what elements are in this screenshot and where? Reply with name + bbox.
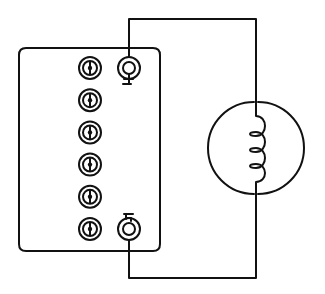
coaxial-terminal-center <box>88 66 92 70</box>
coaxial-terminal[interactable] <box>79 57 101 79</box>
wire-positive <box>129 19 256 102</box>
coaxial-terminal[interactable] <box>79 121 101 143</box>
coaxial-terminal[interactable] <box>79 89 101 111</box>
coaxial-terminal-column <box>79 57 101 240</box>
wire-negative <box>129 194 256 278</box>
lamp-filament <box>250 102 265 194</box>
coaxial-terminal-center <box>88 195 92 199</box>
coaxial-terminal[interactable] <box>79 186 101 208</box>
diagram-canvas <box>0 0 325 294</box>
lamp-bulb-left <box>208 102 254 194</box>
coaxial-terminal-center <box>88 162 92 166</box>
lower-ring-terminal[interactable] <box>118 214 140 240</box>
circuit-diagram <box>0 0 325 294</box>
coaxial-terminal[interactable] <box>79 154 101 176</box>
coaxial-terminal-center <box>88 98 92 102</box>
coaxial-terminal[interactable] <box>79 218 101 240</box>
positive-marking-icon <box>123 74 133 84</box>
coaxial-terminal-center <box>88 130 92 134</box>
ring-terminal-inner <box>123 223 135 235</box>
negative-marking-icon <box>124 214 133 221</box>
coaxial-terminal-center <box>88 227 92 231</box>
lamp-bulb-right <box>258 102 304 194</box>
ring-terminal-inner <box>123 62 135 74</box>
filament-lamp-icon[interactable] <box>208 102 304 194</box>
ring-terminal-outer <box>118 218 140 240</box>
upper-ring-terminal[interactable] <box>118 57 140 84</box>
